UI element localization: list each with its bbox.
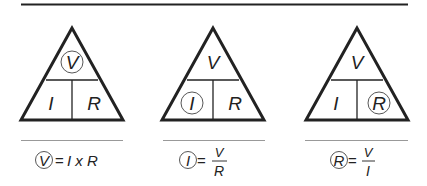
formula-lhs: I [186,152,190,169]
label-top: V [351,52,366,73]
label-bottom-right: R [87,93,101,114]
formula-voltage: V = I x R [36,152,99,170]
formula-lhs: R [334,152,345,169]
formula-denominator: I [366,163,370,179]
triangle-voltage: V I R [21,28,123,120]
formula-resistance: R = V I [331,145,376,179]
formula-numerator: V [364,145,374,160]
label-bottom-left: I [333,93,339,114]
formula-numerator: V [215,145,225,160]
triangle-current: V I R [162,28,264,120]
formula-current: I = V R [180,145,228,179]
formula-equals: = [55,152,64,169]
label-bottom-right: R [228,93,242,114]
label-bottom-left: I [189,93,195,114]
label-top: V [66,52,81,73]
triangle-resistance: V I R [306,28,408,120]
formula-equals: = [197,152,206,169]
label-top: V [207,52,222,73]
formula-equals: = [348,152,357,169]
label-bottom-right: R [372,93,386,114]
formula-rhs: I x R [67,152,98,169]
ohms-law-diagram: V I R V I R V I R V = I x R I = V [0,0,427,186]
label-bottom-left: I [48,93,54,114]
formula-denominator: R [214,163,224,179]
